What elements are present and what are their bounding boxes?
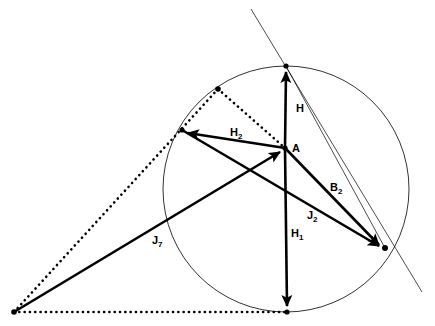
vector-diagram-figure: H A H 2 B 2 J 2 H 1 J 7 xyxy=(0,0,435,326)
label-h: H xyxy=(296,102,304,114)
label-h2-base: H xyxy=(230,126,238,138)
label-b2-sub: 2 xyxy=(338,187,343,196)
label-a: A xyxy=(292,142,300,154)
point-top xyxy=(283,63,288,68)
point-right xyxy=(382,245,388,251)
vector-h xyxy=(285,72,286,148)
label-h1-sub: 1 xyxy=(299,233,304,242)
point-left xyxy=(179,127,184,132)
label-b2-base: B xyxy=(330,181,338,193)
vector-diagram-canvas: H A H 2 B 2 J 2 H 1 J 7 xyxy=(0,0,435,326)
point-bottom xyxy=(284,309,289,314)
label-h2-sub: 2 xyxy=(238,132,243,141)
point-dotted-apex xyxy=(215,86,221,92)
label-j7-sub: 7 xyxy=(158,240,163,249)
label-h1-base: H xyxy=(291,227,299,239)
diagram-background xyxy=(0,0,435,326)
label-j2-sub: 2 xyxy=(313,215,318,224)
point-far-left xyxy=(11,309,17,315)
point-a xyxy=(282,145,287,150)
